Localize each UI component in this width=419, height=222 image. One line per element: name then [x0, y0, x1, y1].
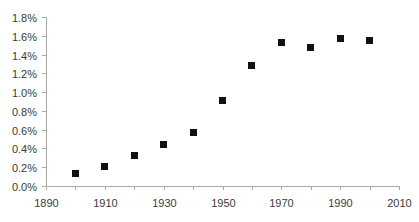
y-axis-tick-label: 1.2% — [12, 68, 37, 80]
y-axis: 0.0%0.2%0.4%0.6%0.8%1.0%1.2%1.4%1.6%1.8% — [12, 12, 46, 193]
x-axis: 1890191019301950197019902010 — [34, 186, 411, 209]
x-axis-tick-labels: 1890191019301950197019902010 — [34, 197, 411, 209]
x-axis-tick-label: 1890 — [34, 197, 58, 209]
chart-canvas: 0.0%0.2%0.4%0.6%0.8%1.0%1.2%1.4%1.6%1.8%… — [0, 0, 419, 222]
y-axis-tick-label: 1.8% — [12, 12, 37, 24]
data-point — [101, 163, 108, 170]
data-point — [72, 170, 79, 177]
data-point — [278, 39, 285, 46]
data-point — [190, 129, 197, 136]
data-point — [131, 152, 138, 159]
y-axis-tick-label: 0.8% — [12, 106, 37, 118]
y-axis-tick-labels: 0.0%0.2%0.4%0.6%0.8%1.0%1.2%1.4%1.6%1.8% — [12, 12, 37, 193]
x-axis-ticks — [47, 186, 400, 190]
scatter-chart: 0.0%0.2%0.4%0.6%0.8%1.0%1.2%1.4%1.6%1.8%… — [0, 0, 419, 222]
x-axis-tick-label: 2010 — [387, 197, 411, 209]
y-axis-tick-label: 0.2% — [12, 162, 37, 174]
x-axis-tick-label: 1910 — [93, 197, 117, 209]
x-axis-tick-label: 1950 — [211, 197, 235, 209]
data-point — [160, 141, 167, 148]
x-axis-tick-label: 1930 — [152, 197, 176, 209]
data-point — [337, 35, 344, 42]
data-series — [72, 35, 373, 177]
y-axis-tick-label: 0.0% — [12, 181, 37, 193]
y-axis-ticks — [42, 18, 46, 187]
y-axis-tick-label: 0.6% — [12, 125, 37, 137]
y-axis-tick-label: 0.4% — [12, 143, 37, 155]
y-axis-tick-label: 1.0% — [12, 87, 37, 99]
data-point — [219, 97, 226, 104]
data-point — [248, 62, 255, 69]
x-axis-tick-label: 1990 — [328, 197, 352, 209]
data-point — [307, 44, 314, 51]
x-axis-tick-label: 1970 — [269, 197, 293, 209]
y-axis-tick-label: 1.4% — [12, 50, 37, 62]
y-axis-tick-label: 1.6% — [12, 31, 37, 43]
data-point — [366, 37, 373, 44]
